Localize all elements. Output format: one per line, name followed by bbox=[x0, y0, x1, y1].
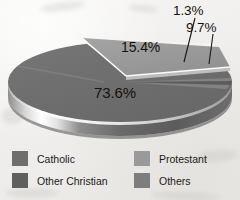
data-label-catholic: 73.6% bbox=[94, 84, 136, 101]
data-label-other-christian: 1.3% bbox=[173, 3, 203, 18]
pie-chart-figure: 73.6% 15.4% 1.3% 9.7% Catholic Protestan… bbox=[0, 0, 240, 200]
data-label-protestant: 15.4% bbox=[121, 39, 160, 55]
legend-swatch-icon bbox=[12, 173, 28, 188]
legend-item-label: Protestant bbox=[159, 153, 207, 165]
legend-item-protestant: Protestant bbox=[134, 151, 207, 166]
chart-legend: Catholic Protestant Other Christian Othe… bbox=[0, 148, 240, 200]
legend-item-other-christian: Other Christian bbox=[12, 173, 108, 188]
legend-item-label: Others bbox=[159, 175, 191, 187]
legend-swatch-icon bbox=[134, 173, 150, 188]
legend-item-label: Catholic bbox=[37, 153, 75, 165]
legend-item-catholic: Catholic bbox=[12, 151, 75, 166]
legend-swatch-icon bbox=[134, 151, 150, 166]
legend-swatch-icon bbox=[12, 151, 28, 166]
legend-item-label: Other Christian bbox=[37, 175, 108, 187]
data-label-others: 9.7% bbox=[186, 20, 216, 35]
legend-item-others: Others bbox=[134, 173, 191, 188]
pie-plot-area: 73.6% 15.4% 1.3% 9.7% bbox=[0, 0, 240, 146]
